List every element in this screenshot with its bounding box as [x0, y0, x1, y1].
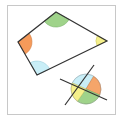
circle-figure [60, 65, 107, 105]
angle-diagram [0, 0, 122, 126]
angle-top-green [44, 12, 69, 27]
